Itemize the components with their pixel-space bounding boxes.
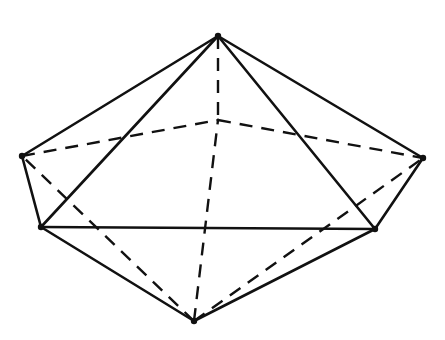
- hidden-edges: [22, 36, 423, 321]
- edge-front_right-right: [375, 158, 423, 229]
- vertex-bottom: [191, 318, 197, 324]
- pentagonal-bipyramid-diagram: [0, 0, 445, 340]
- edge-top-right: [218, 36, 423, 158]
- vertex-left: [19, 153, 25, 159]
- vertex-front_left: [38, 224, 44, 230]
- vertex-front_right: [372, 226, 378, 232]
- edge-top-front_left: [41, 36, 218, 227]
- edge-bottom-front_left: [41, 227, 194, 321]
- vertex-right: [420, 155, 426, 161]
- hidden-edge-bottom-right: [194, 158, 423, 321]
- edge-bottom-front_right: [194, 229, 375, 321]
- hidden-edge-bottom-back: [194, 120, 218, 321]
- vertex-back: [217, 119, 220, 122]
- edge-top-front_right: [218, 36, 375, 229]
- visible-edges: [22, 36, 423, 321]
- vertex-top: [215, 33, 221, 39]
- vertices: [19, 33, 426, 324]
- hidden-edge-bottom-left: [22, 156, 194, 321]
